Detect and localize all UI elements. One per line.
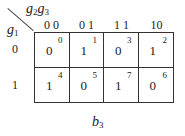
kmap-cell: 05 — [70, 68, 105, 103]
cell-value: 0 — [81, 78, 88, 94]
cell-index: 6 — [163, 70, 168, 80]
column-variable-label: g2g3 — [26, 1, 49, 17]
cell-value: 1 — [115, 78, 122, 94]
cell-value: 1 — [81, 43, 88, 59]
column-header: 1 1 — [104, 18, 139, 33]
map-caption: b3 — [92, 114, 104, 130]
cell-index: 4 — [58, 70, 63, 80]
row-header: 0 — [8, 42, 22, 57]
karnaugh-map-grid: 00 11 03 12 14 05 17 06 — [34, 32, 174, 103]
kmap-cell: 03 — [104, 33, 139, 68]
kmap-cell: 11 — [70, 33, 105, 68]
cell-value: 1 — [46, 78, 53, 94]
cell-value: 0 — [46, 43, 53, 59]
row-header: 1 — [8, 78, 22, 93]
cell-index: 2 — [163, 35, 168, 45]
cell-value: 1 — [150, 43, 157, 59]
cell-index: 3 — [127, 35, 132, 45]
column-header: 0 0 — [34, 18, 69, 33]
kmap-cell: 00 — [35, 33, 70, 68]
cell-value: 0 — [115, 43, 122, 59]
kmap-cell: 14 — [35, 68, 70, 103]
column-header: 0 1 — [69, 18, 104, 33]
cell-index: 5 — [93, 70, 98, 80]
cell-index: 7 — [127, 70, 132, 80]
column-header: 10 — [139, 18, 174, 33]
kmap-cell: 06 — [139, 68, 174, 103]
row-variable-label: g1 — [7, 22, 19, 38]
kmap-cell: 17 — [104, 68, 139, 103]
kmap-cell: 12 — [139, 33, 174, 68]
cell-index: 1 — [93, 35, 98, 45]
cell-value: 0 — [150, 78, 157, 94]
cell-index: 0 — [58, 35, 63, 45]
